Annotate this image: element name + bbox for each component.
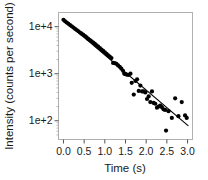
x-tick-label: 2.5 — [160, 145, 175, 157]
data-point — [147, 94, 151, 98]
data-point — [185, 116, 189, 120]
x-tick-label: 0.0 — [56, 145, 71, 157]
data-point — [128, 72, 132, 76]
x-tick-label: 3.0 — [180, 145, 195, 157]
data-point — [173, 96, 177, 100]
y-tick-label: 1e+4 — [29, 20, 53, 32]
data-point — [130, 81, 134, 85]
data-point — [109, 56, 113, 60]
y-axis-title: Intensity (counts per second) — [3, 2, 15, 150]
x-axis-title: Time (s) — [104, 162, 146, 174]
data-point — [138, 83, 142, 87]
data-point — [132, 92, 136, 96]
x-tick-label: 0.5 — [77, 145, 92, 157]
decay-chart-figure: 0.00.51.01.52.02.53.0 1e+21e+31e+4 Time … — [0, 0, 208, 180]
data-point — [164, 128, 168, 132]
data-point — [143, 90, 147, 94]
data-point — [166, 109, 170, 113]
data-point — [135, 77, 139, 81]
data-point — [176, 114, 180, 118]
x-tick-label: 1.5 — [118, 145, 133, 157]
data-point — [170, 116, 174, 120]
x-tick-label: 1.0 — [98, 145, 113, 157]
x-axis-tick-labels: 0.00.51.01.52.02.53.0 — [56, 145, 195, 157]
data-point — [150, 89, 154, 93]
y-tick-label: 1e+3 — [29, 67, 53, 79]
data-point — [180, 100, 184, 104]
y-tick-label: 1e+2 — [29, 114, 53, 126]
x-tick-label: 2.0 — [139, 145, 154, 157]
data-point — [153, 102, 157, 106]
plot-canvas: 0.00.51.01.52.02.53.0 1e+21e+31e+4 Time … — [0, 0, 208, 180]
